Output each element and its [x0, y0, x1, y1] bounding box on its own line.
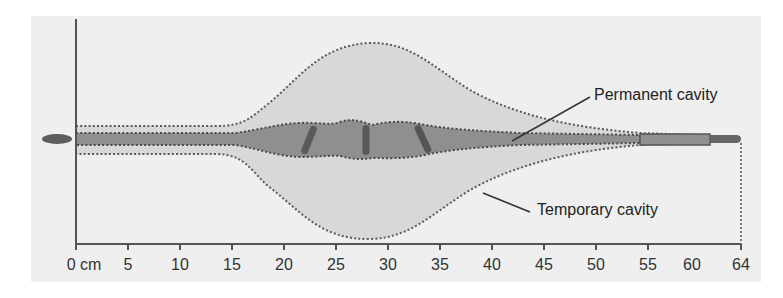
temporary-cavity-label: Temporary cavity: [537, 201, 658, 219]
bullet-exit-icon: [709, 135, 741, 143]
tick-label-45: 45: [535, 256, 553, 274]
tick-label-64: 64: [732, 256, 750, 274]
tick-label-35: 35: [431, 256, 449, 274]
tick-label-20: 20: [275, 256, 293, 274]
cavity-diagram: [0, 0, 783, 298]
bullet-entry-icon: [42, 134, 72, 144]
tick-label-50: 50: [587, 256, 605, 274]
tick-label-10: 10: [171, 256, 189, 274]
tick-label-60: 60: [683, 256, 701, 274]
tick-label-25: 25: [327, 256, 345, 274]
tumbling-bullet-2: [363, 125, 370, 155]
tick-label-15: 15: [223, 256, 241, 274]
tick-label-30: 30: [379, 256, 397, 274]
tick-label-0: 0 cm: [67, 256, 102, 274]
exit-channel: [640, 134, 710, 145]
tick-label-5: 5: [124, 256, 133, 274]
permanent-cavity-label: Permanent cavity: [594, 86, 718, 104]
tick-label-55: 55: [639, 256, 657, 274]
temporary-leader-line: [483, 193, 530, 212]
tick-label-40: 40: [483, 256, 501, 274]
